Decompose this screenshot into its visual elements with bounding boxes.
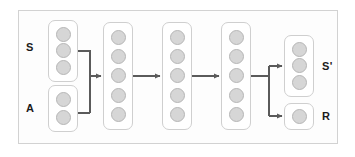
node bbox=[170, 88, 185, 103]
node bbox=[56, 27, 71, 42]
node bbox=[170, 30, 185, 45]
node bbox=[229, 88, 244, 103]
label-input-action: A bbox=[26, 103, 34, 114]
node bbox=[229, 49, 244, 64]
node bbox=[56, 92, 71, 107]
layer-group-hidden-3 bbox=[221, 22, 251, 130]
network-diagram: S A S' R bbox=[0, 0, 355, 157]
layer-group-input-state bbox=[48, 20, 78, 82]
node bbox=[170, 49, 185, 64]
node bbox=[111, 107, 126, 122]
node bbox=[229, 68, 244, 83]
layer-group-hidden-1 bbox=[103, 22, 133, 130]
node bbox=[56, 110, 71, 125]
node bbox=[292, 109, 307, 124]
label-input-state: S bbox=[26, 42, 34, 53]
node bbox=[111, 30, 126, 45]
layer-group-output-state bbox=[284, 35, 314, 97]
node bbox=[292, 42, 307, 57]
node bbox=[229, 107, 244, 122]
node bbox=[229, 30, 244, 45]
node bbox=[111, 68, 126, 83]
layer-group-input-action bbox=[48, 85, 78, 132]
node bbox=[111, 49, 126, 64]
node bbox=[292, 75, 307, 90]
node bbox=[170, 107, 185, 122]
node bbox=[111, 88, 126, 103]
node bbox=[56, 60, 71, 75]
layer-group-hidden-2 bbox=[162, 22, 192, 130]
label-output-state: S' bbox=[322, 61, 333, 72]
node bbox=[170, 68, 185, 83]
node bbox=[56, 43, 71, 58]
node bbox=[292, 58, 307, 73]
layer-group-output-reward bbox=[284, 103, 314, 130]
label-output-reward: R bbox=[322, 111, 330, 122]
